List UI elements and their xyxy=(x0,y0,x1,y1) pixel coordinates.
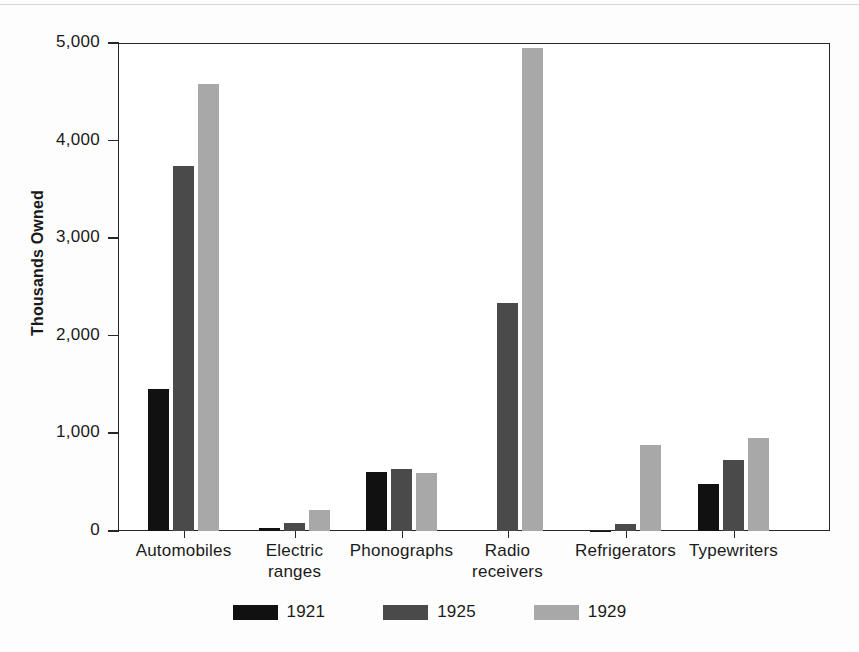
legend-label: 1929 xyxy=(588,602,627,622)
chart-legend: 192119251929 xyxy=(0,602,859,622)
bar xyxy=(522,48,543,531)
y-tick-label: 0 xyxy=(0,520,100,540)
bar xyxy=(640,445,661,531)
bar xyxy=(309,510,330,531)
bar xyxy=(391,469,412,531)
y-tick-label: 4,000 xyxy=(0,130,100,150)
bar-group xyxy=(259,43,330,531)
bar xyxy=(615,524,636,531)
x-axis-category-label: Typewriters xyxy=(659,540,809,561)
y-tick-label: 5,000 xyxy=(0,32,100,52)
bar xyxy=(748,438,769,531)
bars-layer xyxy=(118,43,830,531)
bar xyxy=(148,389,169,531)
bar-chart-figure: Thousands Owned 01,0002,0003,0004,0005,0… xyxy=(0,0,859,652)
y-tick-label: 1,000 xyxy=(0,422,100,442)
legend-label: 1925 xyxy=(437,602,476,622)
bar-group xyxy=(472,43,543,531)
x-tick-mark xyxy=(626,531,628,538)
legend-item: 1929 xyxy=(534,602,627,622)
legend-swatch xyxy=(233,605,278,620)
bar-group xyxy=(366,43,437,531)
bar xyxy=(259,528,280,531)
y-tick-label: 2,000 xyxy=(0,325,100,345)
x-tick-mark xyxy=(508,531,510,538)
legend-item: 1925 xyxy=(383,602,476,622)
bar xyxy=(366,472,387,531)
bar xyxy=(173,166,194,531)
bar xyxy=(698,484,719,531)
x-axis-labels: AutomobilesElectric rangesPhonographsRad… xyxy=(0,540,859,600)
scan-hairline xyxy=(0,4,859,5)
legend-item: 1921 xyxy=(233,602,326,622)
legend-label: 1921 xyxy=(287,602,326,622)
bar xyxy=(198,84,219,531)
x-tick-mark xyxy=(734,531,736,538)
bar-group xyxy=(590,43,661,531)
x-tick-mark xyxy=(402,531,404,538)
legend-swatch xyxy=(534,605,579,620)
bar xyxy=(416,473,437,531)
y-tick-label: 3,000 xyxy=(0,227,100,247)
x-tick-mark xyxy=(295,531,297,538)
bar xyxy=(723,460,744,531)
bar xyxy=(497,303,518,531)
x-tick-mark xyxy=(184,531,186,538)
legend-swatch xyxy=(383,605,428,620)
bar xyxy=(284,523,305,531)
bar-group xyxy=(698,43,769,531)
bar-group xyxy=(148,43,219,531)
